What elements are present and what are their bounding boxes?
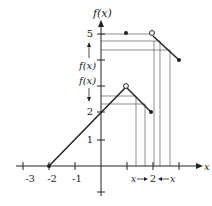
x-tick-label: -3 — [25, 173, 35, 184]
y-tick-label: 5 — [87, 28, 93, 39]
x-tick-label: -1 — [72, 173, 82, 184]
x-left-label: x — [131, 174, 136, 184]
open-point — [124, 84, 129, 89]
x-axis-arrow-icon — [196, 163, 203, 169]
x-center-label: 2 — [150, 173, 156, 184]
guide-lines — [101, 34, 170, 166]
closed-point — [124, 31, 128, 35]
limit-diagram: -3 -2 -1 1 2 5 f(x) x f(x) f(x) x 2 x — [0, 0, 212, 206]
arrow-down-icon — [87, 97, 91, 102]
closed-point — [177, 58, 181, 62]
closed-point — [47, 164, 51, 168]
y-tick-label: 1 — [87, 134, 93, 145]
arrow-right-icon — [144, 177, 148, 181]
y-axis-label: f(x) — [92, 7, 112, 20]
closed-point — [149, 110, 153, 114]
x-axis-label: x — [204, 161, 210, 172]
fx-annotation-lower: f(x) — [78, 75, 96, 86]
x-right-label: x — [170, 174, 175, 184]
open-point — [150, 31, 155, 36]
y-tick-label: 2 — [87, 106, 93, 117]
x-tick-label: -2 — [47, 173, 57, 184]
function-graph — [49, 36, 179, 166]
arrow-up-icon — [87, 42, 91, 47]
fx-annotation-upper: f(x) — [78, 60, 96, 71]
y-axis-arrow-icon — [98, 20, 104, 27]
